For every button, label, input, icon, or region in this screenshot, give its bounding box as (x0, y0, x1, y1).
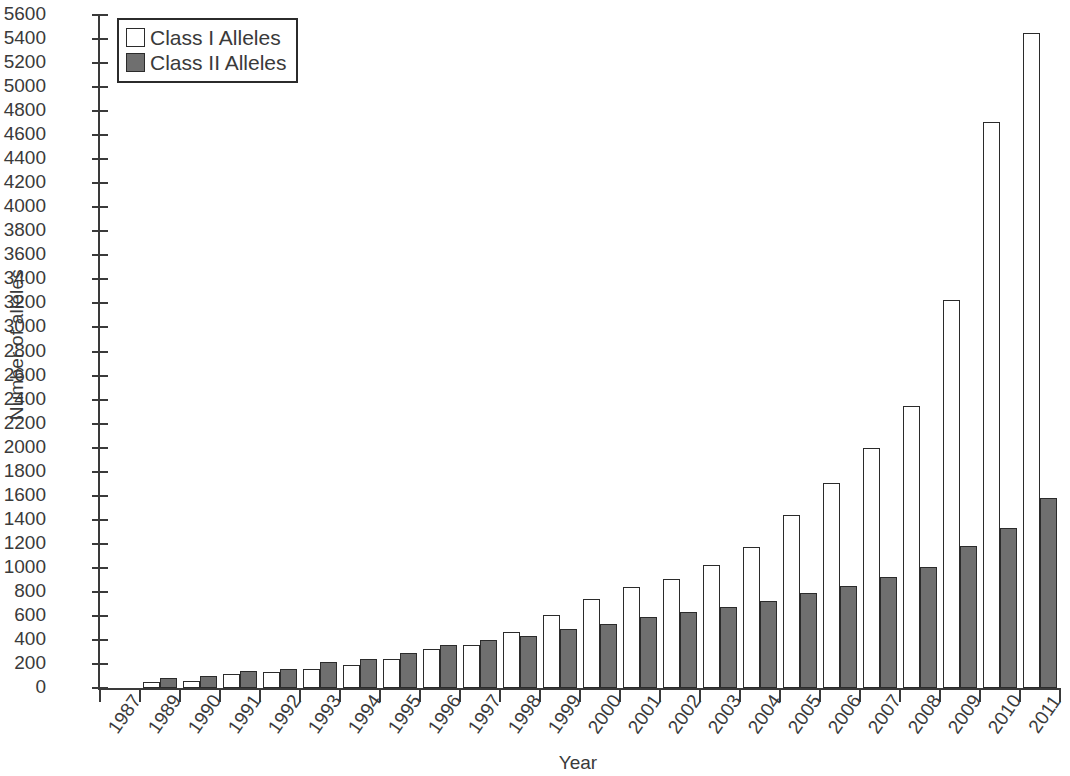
y-axis-tick-label: 2200 (0, 412, 46, 434)
bar-class-ii[interactable] (160, 678, 177, 688)
bar-group (1020, 15, 1060, 688)
bar-group (900, 15, 940, 688)
bar-class-i[interactable] (423, 649, 440, 688)
bar-class-ii[interactable] (600, 624, 617, 688)
bar-group (420, 15, 460, 688)
y-axis-tick-label: 4000 (0, 195, 46, 217)
bar-group (780, 15, 820, 688)
bar-chart-figure: Number of alleles 0200400600800100012001… (0, 0, 1070, 776)
y-axis-tick-label: 2400 (0, 388, 46, 410)
y-axis-tick-label: 3600 (0, 243, 46, 265)
bar-class-i[interactable] (783, 515, 800, 688)
bar-group (380, 15, 420, 688)
bar-class-ii[interactable] (200, 676, 217, 688)
bar-class-i[interactable] (703, 565, 720, 688)
bar-class-i[interactable] (903, 406, 920, 688)
bar-class-i[interactable] (223, 674, 240, 688)
legend-item-label: Class I Alleles (150, 27, 281, 48)
bar-class-i[interactable] (343, 665, 360, 688)
y-axis-tick-label: 800 (0, 580, 46, 602)
bar-class-i[interactable] (823, 483, 840, 689)
bar-class-ii[interactable] (280, 669, 297, 688)
bar-class-i[interactable] (303, 669, 320, 688)
y-axis-tick-label: 3800 (0, 219, 46, 241)
bar-class-ii[interactable] (840, 586, 857, 688)
bar-class-ii[interactable] (800, 593, 817, 688)
bar-class-i[interactable] (623, 587, 640, 688)
bar-group (700, 15, 740, 688)
bars-container (100, 15, 1060, 688)
bar-group (620, 15, 660, 688)
bar-class-ii[interactable] (440, 645, 457, 688)
y-axis-tick-label: 5000 (0, 75, 46, 97)
bar-class-ii[interactable] (560, 629, 577, 688)
bar-class-ii[interactable] (520, 636, 537, 688)
bar-class-i[interactable] (263, 672, 280, 688)
bar-group (820, 15, 860, 688)
bar-class-ii[interactable] (920, 567, 937, 688)
y-axis-tick-label: 4600 (0, 123, 46, 145)
bar-group (660, 15, 700, 688)
bar-class-i[interactable] (1023, 33, 1040, 688)
bar-class-i[interactable] (943, 300, 960, 688)
legend-item[interactable]: Class II Alleles (126, 50, 287, 75)
bar-class-ii[interactable] (360, 659, 377, 688)
y-axis-tick-label: 4200 (0, 171, 46, 193)
bar-group (460, 15, 500, 688)
y-axis-tick-label: 1600 (0, 484, 46, 506)
bar-group (220, 15, 260, 688)
plot-area: 0200400600800100012001400160018002000220… (98, 15, 1060, 690)
bar-group (740, 15, 780, 688)
x-axis-tick-mark (99, 688, 101, 702)
y-axis-tick-label: 1200 (0, 532, 46, 554)
y-axis-tick-label: 5400 (0, 27, 46, 49)
bar-class-i[interactable] (583, 599, 600, 688)
bar-group (340, 15, 380, 688)
y-axis-tick-label: 4800 (0, 99, 46, 121)
bar-class-ii[interactable] (1000, 528, 1017, 688)
bar-group (140, 15, 180, 688)
bar-class-ii[interactable] (680, 612, 697, 688)
bar-class-i[interactable] (983, 122, 1000, 688)
bar-group (500, 15, 540, 688)
bar-class-i[interactable] (863, 448, 880, 688)
y-axis-tick-label: 200 (0, 652, 46, 674)
x-axis-title: Year (98, 752, 1058, 774)
bar-class-i[interactable] (463, 645, 480, 688)
y-axis-tick-label: 3200 (0, 291, 46, 313)
bar-class-ii[interactable] (240, 671, 257, 688)
bar-class-ii[interactable] (880, 577, 897, 688)
bar-class-i[interactable] (183, 681, 200, 688)
legend-item[interactable]: Class I Alleles (126, 25, 287, 50)
y-axis-tick-label: 1800 (0, 460, 46, 482)
bar-group (860, 15, 900, 688)
bar-group (180, 15, 220, 688)
bar-class-ii[interactable] (640, 617, 657, 688)
bar-class-ii[interactable] (1040, 498, 1057, 688)
y-axis-tick-label: 1400 (0, 508, 46, 530)
bar-class-i[interactable] (663, 579, 680, 688)
bar-class-ii[interactable] (320, 662, 337, 688)
bar-class-i[interactable] (743, 547, 760, 688)
bar-class-ii[interactable] (400, 653, 417, 688)
y-axis-tick-label: 400 (0, 628, 46, 650)
bar-class-ii[interactable] (480, 640, 497, 688)
y-axis-tick-label: 5600 (0, 3, 46, 25)
bar-class-ii[interactable] (760, 601, 777, 688)
bar-class-ii[interactable] (720, 607, 737, 688)
bar-group (940, 15, 980, 688)
bar-group (300, 15, 340, 688)
legend-item-label: Class II Alleles (150, 52, 287, 73)
bar-class-i[interactable] (543, 615, 560, 688)
y-axis-tick-label: 2800 (0, 340, 46, 362)
y-axis-tick-label: 3400 (0, 267, 46, 289)
y-axis-tick-label: 5200 (0, 51, 46, 73)
y-axis-tick-label: 3000 (0, 315, 46, 337)
bar-class-i[interactable] (503, 632, 520, 688)
bar-class-ii[interactable] (960, 546, 977, 688)
gray-square-swatch (126, 53, 145, 72)
y-axis-tick-label: 600 (0, 604, 46, 626)
y-axis-tick-label: 2600 (0, 364, 46, 386)
bar-class-i[interactable] (383, 659, 400, 688)
white-square-swatch (126, 28, 145, 47)
